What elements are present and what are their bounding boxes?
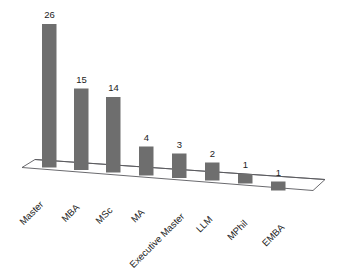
x-tick-label-mphil: MPhil [225,218,250,243]
value-label-executive-master: 3 [177,139,182,150]
bar-series-count [42,24,286,191]
value-label-msc: 14 [108,82,119,93]
bar-mba[interactable] [74,89,89,171]
value-label-llm: 2 [210,148,215,159]
x-tick-label-master: Master [17,199,45,227]
value-label-emba: 1 [276,167,281,178]
value-label-master: 26 [44,9,55,20]
bar-emba[interactable] [271,182,286,191]
bar-mphil[interactable] [238,174,253,184]
value-label-ma: 4 [144,132,149,143]
bar-executive-master[interactable] [172,154,187,179]
bar-chart-figure: 26 15 14 4 3 2 1 1 Master MBA MSc MA Exe… [0,0,341,278]
x-tick-label-llm: LLM [194,214,215,235]
bar-master[interactable] [42,24,57,168]
value-label-mba: 15 [76,74,87,85]
value-label-mphil: 1 [243,159,248,170]
bar-llm[interactable] [205,163,220,181]
x-tick-label-msc: MSc [93,204,114,225]
bar-ma[interactable] [139,147,154,176]
bar-msc[interactable] [106,97,121,173]
chart-canvas: 26 15 14 4 3 2 1 1 Master MBA MSc MA Exe… [0,0,341,278]
x-tick-label-ma: MA [129,206,147,224]
x-tick-label-mba: MBA [59,201,82,224]
x-tick-label-emba: EMBA [260,221,287,248]
category-axis-labels: Master MBA MSc MA Executive Master LLM M… [17,199,287,270]
